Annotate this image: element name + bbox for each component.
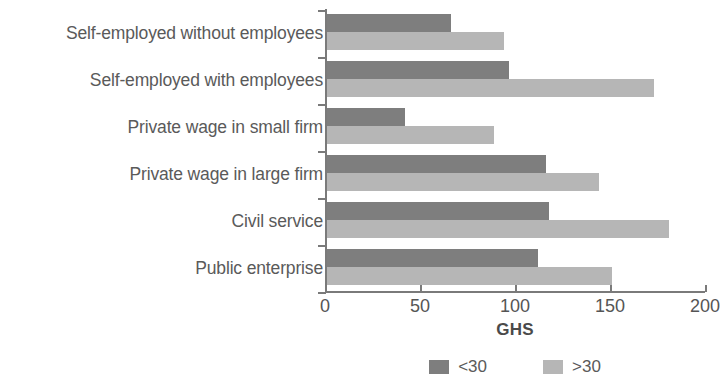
x-axis-title: GHS — [325, 320, 705, 340]
bar-over30 — [327, 220, 669, 238]
legend-label: >30 — [572, 357, 601, 377]
bar-group — [327, 108, 494, 144]
bar-under30 — [327, 249, 538, 267]
chart-row: Public enterprise — [0, 245, 721, 292]
chart-row: Civil service — [0, 198, 721, 245]
bar-under30 — [327, 14, 451, 32]
chart-legend: <30>30 — [325, 357, 705, 377]
bar-group — [327, 14, 504, 50]
legend-swatch — [543, 360, 563, 374]
x-axis-tick-label: 50 — [410, 296, 430, 317]
chart-row: Private wage in large firm — [0, 151, 721, 198]
chart-row: Private wage in small firm — [0, 104, 721, 151]
bar-group — [327, 202, 669, 238]
bar-under30 — [327, 155, 546, 173]
category-label: Civil service — [232, 211, 323, 232]
x-axis-tick-label: 0 — [320, 296, 330, 317]
legend-swatch — [429, 360, 449, 374]
category-label: Self-employed without employees — [66, 23, 323, 44]
category-label: Private wage in small firm — [128, 117, 323, 138]
x-axis-tick-label: 100 — [500, 296, 530, 317]
category-label: Public enterprise — [195, 258, 323, 279]
bar-under30 — [327, 61, 509, 79]
bar-under30 — [327, 108, 405, 126]
bar-group — [327, 61, 654, 97]
legend-item: <30 — [429, 357, 487, 377]
chart-row: Self-employed with employees — [0, 57, 721, 104]
legend-label: <30 — [458, 357, 487, 377]
bar-under30 — [327, 202, 549, 220]
bar-group — [327, 155, 599, 191]
legend-item: >30 — [543, 357, 601, 377]
chart-row: Self-employed without employees — [0, 10, 721, 57]
bar-group — [327, 249, 612, 285]
bar-over30 — [327, 79, 654, 97]
bar-over30 — [327, 173, 599, 191]
category-label: Private wage in large firm — [129, 164, 323, 185]
x-axis-tick-label: 200 — [690, 296, 720, 317]
bar-over30 — [327, 32, 504, 50]
y-axis-tick — [318, 292, 326, 294]
category-label: Self-employed with employees — [90, 70, 323, 91]
bar-over30 — [327, 267, 612, 285]
bar-chart: Self-employed without employeesSelf-empl… — [0, 0, 721, 385]
bar-over30 — [327, 126, 494, 144]
x-axis-tick-label: 150 — [595, 296, 625, 317]
